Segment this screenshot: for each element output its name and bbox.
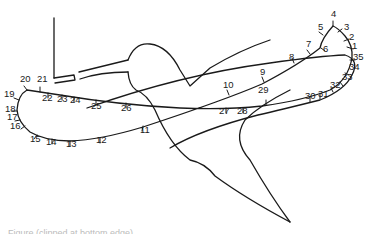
label-34: 34 (349, 61, 360, 72)
label-27: 27 (219, 105, 230, 116)
label-8: 8 (289, 51, 294, 62)
caption-text: Figure (clipped at bottom edge) (8, 229, 133, 234)
label-9: 9 (260, 66, 265, 77)
label-2: 2 (349, 31, 354, 42)
label-15: 15 (30, 133, 41, 144)
label-14: 14 (46, 136, 57, 147)
label-13: 13 (66, 138, 77, 149)
hummingbird-wing-trajectory-diagram: 1 2 3 4 5 6 7 8 9 10 11 12 13 14 15 16 1… (0, 0, 371, 234)
figure-caption-clipped: Figure (clipped at bottom edge) (0, 229, 371, 234)
label-18: 18 (5, 103, 16, 114)
label-32: 32 (330, 79, 341, 90)
label-5: 5 (318, 21, 323, 32)
label-26: 26 (121, 102, 132, 113)
label-35: 35 (353, 51, 364, 62)
label-20: 20 (20, 73, 31, 84)
label-29: 29 (258, 84, 269, 95)
hummingbird-outline (54, 18, 290, 222)
label-22: 22 (42, 92, 53, 103)
label-33: 33 (342, 71, 353, 82)
label-25: 25 (91, 100, 102, 111)
label-10: 10 (223, 79, 234, 90)
label-21: 21 (37, 73, 48, 84)
label-7: 7 (306, 38, 311, 49)
label-31: 31 (318, 88, 329, 99)
label-23: 23 (57, 93, 68, 104)
label-28: 28 (237, 105, 248, 116)
label-4: 4 (331, 8, 336, 19)
label-6: 6 (323, 43, 328, 54)
label-30: 30 (305, 90, 316, 101)
tick-marks (12, 21, 355, 146)
label-12: 12 (96, 134, 107, 145)
wingtip-path (17, 26, 355, 148)
label-24: 24 (70, 94, 81, 105)
label-11: 11 (140, 124, 150, 135)
label-19: 19 (4, 88, 15, 99)
label-3: 3 (344, 21, 349, 32)
